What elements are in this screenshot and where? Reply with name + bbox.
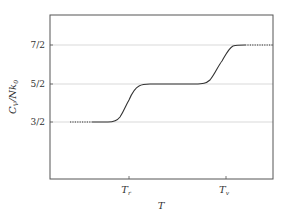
x-tick-label-tv: Tv (219, 184, 230, 196)
x-tick-label-tr: Tr (121, 184, 132, 196)
heat-capacity-curve (92, 45, 245, 122)
y-axis-label: CV/Nk0 (7, 80, 19, 114)
y-tick-label: 5/2 (31, 79, 45, 89)
y-tick-label: 3/2 (31, 117, 45, 127)
y-tick-label: 7/2 (31, 40, 45, 50)
x-axis-label: T (158, 200, 166, 211)
plot-frame (50, 15, 273, 179)
chart: 7/2 5/2 3/2 Tr Tv T CV/Nk0 (0, 0, 286, 222)
